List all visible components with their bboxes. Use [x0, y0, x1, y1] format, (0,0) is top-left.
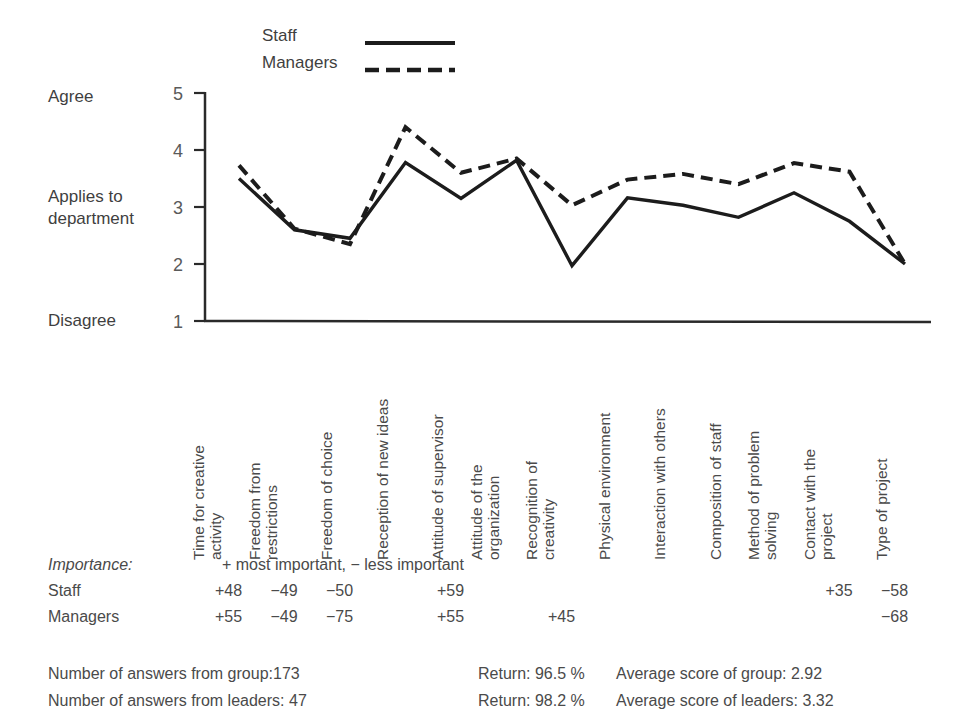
x-axis-category-label-6: Recognition ofcreativity [523, 461, 557, 560]
importance-value-1-1: −49 [271, 608, 298, 626]
x-axis-category-label-4: Attitude of supervisor [429, 414, 446, 560]
importance-row-managers-label: Managers [48, 608, 119, 626]
x-axis-category-label-12-line1: Type of project [873, 458, 890, 560]
series-line-staff [239, 160, 905, 265]
x-axis-category-label-5-line2: organization [485, 464, 502, 560]
importance-header-row: Importance: + most important, − less imp… [48, 556, 948, 582]
x-axis-category-label-3-line1: Reception of new ideas [374, 399, 391, 560]
importance-title: Importance: [48, 556, 132, 574]
x-axis-line [204, 321, 931, 322]
answers-count-group: Number of answers from group:173 [48, 665, 300, 683]
summary-row-group: Number of answers from group:173 Return:… [48, 665, 948, 692]
x-axis-category-label-0-line2: activity [207, 445, 224, 560]
importance-value-0-12: −58 [881, 582, 908, 600]
x-axis-category-label-11-line1: Contact with the [801, 449, 818, 560]
return-rate-leaders: Return: 98.2 % [478, 692, 585, 710]
series-line-managers [239, 127, 905, 264]
x-axis-category-label-0: Time for creativeactivity [190, 445, 224, 560]
importance-value-1-2: −75 [326, 608, 353, 626]
x-axis-category-label-1: Freedom fromrestrictions [246, 463, 280, 560]
y-axis-tick-label-1: 1 [173, 312, 183, 332]
x-axis-category-label-10-line1: Method of problem [745, 431, 762, 560]
x-axis-category-label-2: Freedom of choice [318, 432, 335, 560]
answers-count-leaders: Number of answers from leaders: 47 [48, 692, 307, 710]
x-axis-category-label-10: Method of problemsolving [745, 431, 779, 560]
x-axis-category-label-10-line2: solving [762, 431, 779, 560]
x-axis-category-label-9: Composition of staff [707, 423, 724, 560]
x-axis-category-label-7: Physical environment [596, 413, 613, 560]
importance-value-1-12: −68 [881, 608, 908, 626]
importance-table: Importance: + most important, − less imp… [48, 556, 948, 634]
x-axis-category-labels: Time for creativeactivityFreedom fromres… [0, 330, 971, 560]
y-axis-tick-labels: 54321 [173, 84, 183, 332]
x-axis-category-label-3: Reception of new ideas [374, 399, 391, 560]
survey-line-chart-figure: Staff Managers Agree Applies to departme… [0, 0, 971, 727]
x-axis-category-label-5: Attitude of theorganization [468, 464, 502, 560]
x-axis-category-label-6-line1: Recognition of [523, 461, 540, 560]
y-axis-tick-label-4: 4 [173, 141, 183, 161]
x-axis-category-label-2-line1: Freedom of choice [318, 432, 335, 560]
importance-value-1-4: +55 [437, 608, 464, 626]
importance-value-0-2: −50 [326, 582, 353, 600]
importance-row-managers: Managers +55−49−75+55+45−68 [48, 608, 948, 634]
average-score-leaders: Average score of leaders: 3.32 [616, 692, 834, 710]
x-axis-category-label-1-line1: Freedom from [246, 463, 263, 560]
importance-value-0-4: +59 [437, 582, 464, 600]
importance-value-0-11: +35 [826, 582, 853, 600]
x-axis-category-label-4-line1: Attitude of supervisor [429, 414, 446, 560]
summary-footer: Number of answers from group:173 Return:… [48, 665, 948, 719]
average-score-group: Average score of group: 2.92 [616, 665, 822, 683]
summary-row-leaders: Number of answers from leaders: 47 Retur… [48, 692, 948, 719]
importance-value-1-6: +45 [548, 608, 575, 626]
x-axis-category-label-0-line1: Time for creative [190, 445, 207, 560]
x-axis-category-label-12: Type of project [873, 458, 890, 560]
x-axis-category-label-11: Contact with theproject [801, 449, 835, 560]
importance-row-staff-label: Staff [48, 582, 81, 600]
importance-value-0-0: +48 [215, 582, 242, 600]
importance-value-0-1: −49 [271, 582, 298, 600]
importance-value-1-0: +55 [215, 608, 242, 626]
y-axis-tick-marks [194, 93, 205, 321]
importance-row-staff: Staff +48−49−50+59+35−58 [48, 582, 948, 608]
x-axis-category-label-8-line1: Interaction with others [651, 408, 668, 560]
return-rate-group: Return: 96.5 % [478, 665, 585, 683]
x-axis-category-label-8: Interaction with others [651, 408, 668, 560]
x-axis-category-label-5-line1: Attitude of the [468, 464, 485, 560]
y-axis-tick-label-2: 2 [173, 255, 183, 275]
x-axis-category-label-11-line2: project [818, 449, 835, 560]
y-axis-tick-label-5: 5 [173, 84, 183, 104]
x-axis-category-label-9-line1: Composition of staff [707, 423, 724, 560]
x-axis-category-label-1-line2: restrictions [263, 463, 280, 560]
importance-note: + most important, − less important [222, 556, 464, 574]
y-axis-tick-label-3: 3 [173, 198, 183, 218]
x-axis-category-label-7-line1: Physical environment [596, 413, 613, 560]
x-axis-category-label-6-line2: creativity [540, 461, 557, 560]
